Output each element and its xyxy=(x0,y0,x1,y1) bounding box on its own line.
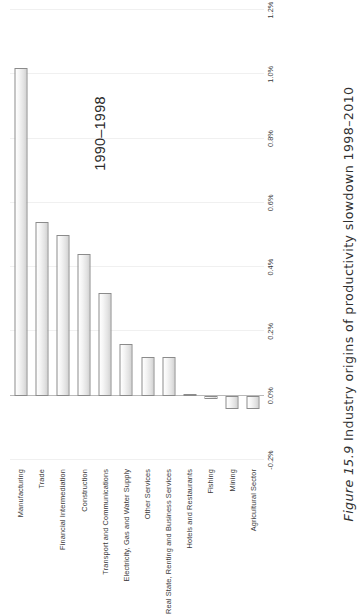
value-tick-label: 0.0% xyxy=(266,387,275,404)
bar-row xyxy=(10,10,31,460)
bar xyxy=(99,293,112,396)
bar-row xyxy=(158,10,179,460)
category-label: Other Services xyxy=(143,469,152,519)
bar xyxy=(56,235,69,396)
category-axis: ManufacturingTradeFinancial Intermediati… xyxy=(10,464,264,608)
bar xyxy=(183,394,196,396)
bar xyxy=(78,254,91,395)
value-tick-label: 0.8% xyxy=(266,130,275,147)
figure-number: Figure 15.9 xyxy=(341,445,356,521)
figure-caption: Figure 15.9 Industry origins of producti… xyxy=(341,0,356,608)
bar-row xyxy=(222,10,243,460)
value-tick-label: 1.2% xyxy=(266,2,275,19)
value-axis: -0.2%0.0%0.2%0.4%0.6%0.8%1.0%1.2% xyxy=(266,10,286,460)
category-tick: Other Services xyxy=(137,464,158,608)
category-tick: Construction xyxy=(73,464,94,608)
category-tick: Agricultural Sector xyxy=(243,464,264,608)
category-tick: Trade xyxy=(31,464,52,608)
bar-row xyxy=(137,10,158,460)
bar xyxy=(120,344,133,395)
value-tick-label: 0.2% xyxy=(266,323,275,340)
category-label: Electricity, Gas and Water Supply xyxy=(122,469,131,582)
category-tick: Electricity, Gas and Water Supply xyxy=(116,464,137,608)
value-tick-label: 0.4% xyxy=(266,259,275,276)
category-label: Real State, Renting and Business Service… xyxy=(164,469,173,614)
category-label: Agricultural Sector xyxy=(249,469,258,531)
category-tick: Transport and Communications xyxy=(95,464,116,608)
bar-series xyxy=(10,10,264,460)
plot-area: ManufacturingTradeFinancial Intermediati… xyxy=(0,0,300,608)
category-label: Mining xyxy=(228,469,237,491)
bar-row xyxy=(95,10,116,460)
category-label: Financial Intermediation xyxy=(58,469,67,550)
bar-row xyxy=(73,10,94,460)
bar xyxy=(141,357,154,396)
value-tick-label: 1.0% xyxy=(266,66,275,83)
bar-row xyxy=(200,10,221,460)
bar xyxy=(35,222,48,396)
series-annotation: 1990–1998 xyxy=(92,96,108,170)
bar xyxy=(226,396,239,409)
category-label: Hotels and Restaurants xyxy=(185,469,194,548)
category-tick: Real State, Renting and Business Service… xyxy=(158,464,179,608)
category-label: Fishing xyxy=(206,469,215,494)
category-tick: Fishing xyxy=(200,464,221,608)
category-tick: Mining xyxy=(222,464,243,608)
bar-row xyxy=(179,10,200,460)
bar xyxy=(14,68,27,396)
category-label: Trade xyxy=(37,469,46,489)
category-tick: Financial Intermediation xyxy=(52,464,73,608)
bar xyxy=(204,396,217,399)
category-label: Manufacturing xyxy=(16,469,25,517)
category-tick: Hotels and Restaurants xyxy=(179,464,200,608)
category-label: Transport and Communications xyxy=(101,469,110,575)
category-label: Construction xyxy=(80,469,89,512)
bar-row xyxy=(52,10,73,460)
value-tick-label: -0.2% xyxy=(266,450,275,469)
figure-caption-text: Industry origins of productivity slowdow… xyxy=(341,87,356,442)
bar xyxy=(247,396,260,409)
bar-row xyxy=(116,10,137,460)
value-tick-label: 0.6% xyxy=(266,194,275,211)
bar-row xyxy=(31,10,52,460)
bar-row xyxy=(243,10,264,460)
category-tick: Manufacturing xyxy=(10,464,31,608)
bar xyxy=(162,357,175,396)
